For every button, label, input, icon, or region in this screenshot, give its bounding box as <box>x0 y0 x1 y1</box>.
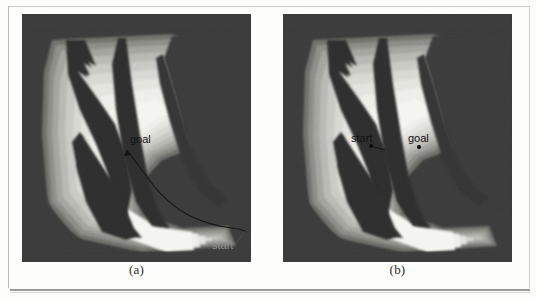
figure-caption-a: (a) <box>22 262 251 278</box>
potential-field-plot-b: start goal <box>283 14 512 262</box>
goal-label-a: goal <box>130 134 151 145</box>
terrain-contour-render-b <box>283 14 512 262</box>
figure-bottom-rule <box>10 289 530 291</box>
start-label-b: start <box>351 133 372 144</box>
figure-page: goal start (a) <box>0 0 536 300</box>
potential-field-plot-a: goal start <box>22 14 251 262</box>
figure-panel-b: start goal <box>283 14 512 262</box>
goal-label-b: goal <box>408 133 429 144</box>
goal-marker-b <box>417 145 421 149</box>
start-marker-b <box>369 144 373 148</box>
figure-caption-b: (b) <box>283 262 512 278</box>
figure-bottom-rule-shadow <box>10 292 530 293</box>
figure-panel-a: goal start <box>22 14 251 262</box>
start-label-a: start <box>212 240 233 251</box>
figure-panel-row: goal start (a) <box>0 0 536 300</box>
